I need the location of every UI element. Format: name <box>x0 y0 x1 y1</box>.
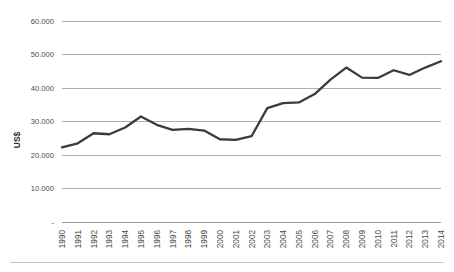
x-tick-label: 2001 <box>232 230 241 249</box>
x-tick-label: 2002 <box>248 230 257 249</box>
line-chart: -10.00020.00030.00040.00050.00060.000 19… <box>0 0 454 272</box>
x-tick-label: 2003 <box>263 230 272 249</box>
y-tick-label: 20.000 <box>31 151 54 160</box>
y-tick-label: 30.000 <box>31 117 54 126</box>
x-tick-label: 2009 <box>358 230 367 249</box>
x-tick-label: 1998 <box>184 230 193 249</box>
x-tick-label: 2014 <box>437 230 446 249</box>
x-tick-label: 1995 <box>137 230 146 249</box>
x-tick-label: 1992 <box>90 230 99 249</box>
x-tick-label: 2004 <box>279 230 288 249</box>
x-tick-label: 1993 <box>105 230 114 249</box>
x-tick-label: 1994 <box>121 230 130 249</box>
series-group <box>62 61 441 147</box>
x-axis-tick-labels: 1990199119921993199419951996199719981999… <box>58 230 446 249</box>
x-tick-label: 1991 <box>74 230 83 249</box>
x-tick-label: 2013 <box>421 230 430 249</box>
x-tick-label: 1996 <box>153 230 162 249</box>
x-tick-label: 1990 <box>58 230 67 249</box>
y-tick-label: - <box>51 218 54 227</box>
y-tick-label: 60.000 <box>31 17 54 26</box>
x-tick-label: 2010 <box>374 230 383 249</box>
y-tick-label: 10.000 <box>31 184 54 193</box>
gridlines-group <box>62 21 441 222</box>
x-tick-label: 1999 <box>200 230 209 249</box>
x-tick-label: 2005 <box>295 230 304 249</box>
x-tick-label: 1997 <box>169 230 178 249</box>
chart-canvas: -10.00020.00030.00040.00050.00060.000 19… <box>0 0 454 272</box>
x-tick-label: 2008 <box>342 230 351 249</box>
y-axis-tick-labels: -10.00020.00030.00040.00050.00060.000 <box>31 17 55 227</box>
x-tick-label: 2006 <box>311 230 320 249</box>
y-tick-label: 40.000 <box>31 84 54 93</box>
y-axis-title: US$ <box>12 132 22 149</box>
x-tick-label: 2011 <box>390 230 399 248</box>
x-tick-label: 2007 <box>326 230 335 249</box>
data-series-line <box>62 61 441 147</box>
y-tick-label: 50.000 <box>31 50 54 59</box>
x-tick-label: 2012 <box>405 230 414 249</box>
x-tick-label: 2000 <box>216 230 225 249</box>
